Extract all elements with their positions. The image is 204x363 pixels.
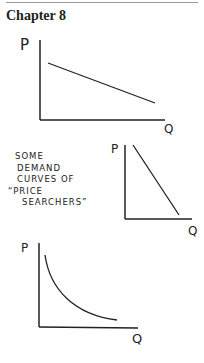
graph1-demand-line [48, 63, 155, 103]
graph3-x-axis [39, 327, 138, 328]
graph3-y-label: P [21, 241, 28, 255]
caption-line: “Price [8, 186, 87, 198]
graph1-y-label: P [20, 36, 29, 54]
caption-line: Some [8, 151, 87, 163]
graph-curved-demand: P Q [21, 241, 142, 346]
diagram-caption: Some Demand curves of “Price Searchers” [8, 151, 87, 209]
graph2-demand-line [133, 145, 179, 215]
caption-line: curves of [8, 174, 87, 186]
caption-line: Searchers” [8, 197, 87, 209]
graph-shallow-demand: P Q [20, 36, 173, 136]
graph1-x-label: Q [164, 122, 173, 136]
graph2-x-label: Q [188, 224, 197, 238]
graph-steep-demand: P Q [111, 142, 197, 238]
graph3-demand-curve [45, 255, 117, 320]
graph3-x-label: Q [132, 331, 142, 346]
graph2-y-label: P [111, 142, 118, 156]
caption-line: Demand [8, 163, 87, 175]
